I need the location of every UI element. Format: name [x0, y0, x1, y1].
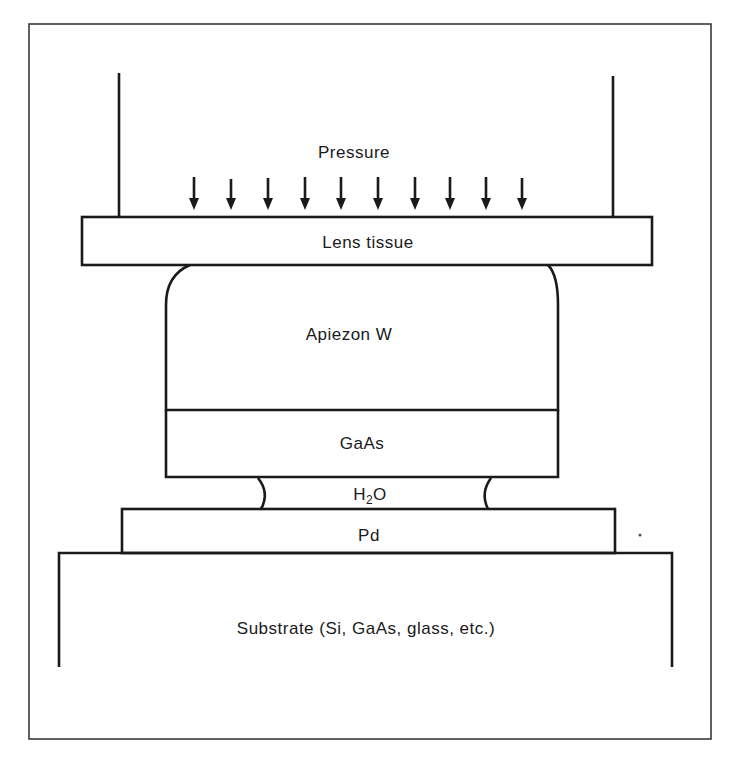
water-label: H2O — [353, 485, 387, 507]
down-arrow-icon — [410, 177, 420, 210]
substrate-label: Substrate (Si, GaAs, glass, etc.) — [237, 619, 495, 638]
down-arrow-icon — [481, 177, 491, 210]
down-arrow-icon — [189, 177, 199, 210]
down-arrow-icon — [336, 177, 346, 210]
down-arrow-icon — [300, 177, 310, 210]
down-arrow-icon — [373, 177, 383, 210]
pressure-label: Pressure — [318, 143, 390, 162]
pressure-arrows — [189, 177, 527, 210]
speck — [639, 534, 642, 537]
down-arrow-icon — [445, 177, 455, 210]
down-arrow-icon — [226, 179, 236, 210]
apiezon-label: Apiezon W — [306, 325, 393, 344]
gaas-label: GaAs — [340, 434, 385, 453]
lens-tissue-label: Lens tissue — [322, 233, 414, 252]
substrate-layer — [59, 553, 672, 667]
down-arrow-icon — [517, 178, 527, 210]
pd-label: Pd — [358, 526, 380, 545]
diagram-canvas: Pressure Lens tissue Apiezon W GaAs H2O … — [0, 0, 732, 767]
down-arrow-icon — [263, 178, 273, 210]
